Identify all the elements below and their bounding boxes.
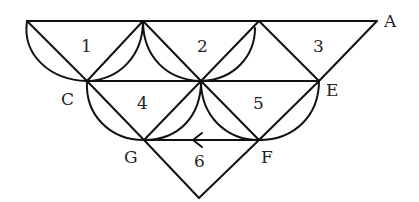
edge-t2-e: [259, 21, 319, 81]
edge-c-t1: [87, 21, 143, 81]
edge-t0-c: [27, 21, 87, 81]
region-label-1: 1: [81, 36, 92, 56]
edge-bottom-f: [199, 140, 259, 198]
region-label-4: 4: [137, 93, 148, 113]
edge-g-bottom: [144, 140, 199, 198]
edge-c-g: [87, 81, 144, 140]
vertex-label-c: C: [61, 89, 74, 109]
graph-diagram: A C E G F 1 2 3 4 5 6: [0, 0, 419, 202]
edge-t1-m: [143, 21, 201, 81]
edge-g-m: [144, 81, 201, 140]
region-label-3: 3: [313, 36, 324, 56]
edge-f-e: [259, 81, 319, 140]
edge-m-f: [201, 81, 259, 140]
region-label-2: 2: [197, 36, 208, 56]
vertex-label-a: A: [383, 11, 397, 31]
edge-e-a: [319, 21, 377, 81]
region-label-5: 5: [253, 93, 264, 113]
region-label-6: 6: [194, 151, 205, 171]
vertex-label-f: F: [261, 147, 273, 167]
vertex-label-g: G: [124, 147, 138, 167]
vertex-label-e: E: [326, 80, 338, 100]
